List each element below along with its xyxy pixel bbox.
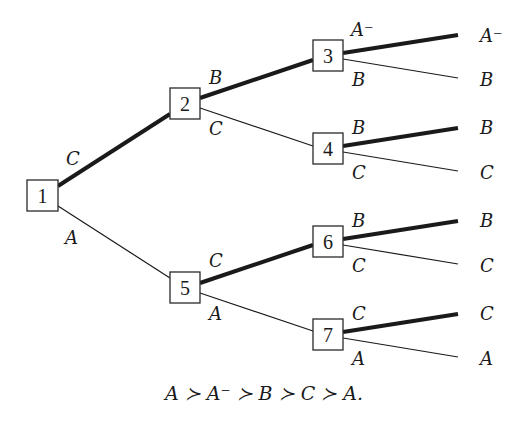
- node-7-label: 7: [323, 324, 333, 346]
- node-5: 5: [170, 272, 200, 303]
- game-tree-diagram: 1 2 3 4 5 6 7 C A B C C A A⁻ B B C B C C…: [0, 0, 517, 424]
- edge-label-6-a: B: [351, 210, 365, 231]
- edge-label-2-4: C: [209, 118, 223, 139]
- node-7: 7: [313, 319, 343, 350]
- leaf-8: A: [478, 348, 493, 369]
- leaf-7: C: [480, 303, 494, 324]
- edge-label-4-a: B: [351, 117, 365, 138]
- node-6: 6: [313, 226, 343, 257]
- edge-label-3-a: A⁻: [349, 19, 374, 40]
- node-3: 3: [313, 40, 343, 71]
- leaf-2: B: [479, 69, 493, 90]
- node-4-label: 4: [323, 138, 333, 160]
- preference-caption: A ≻ A⁻ ≻ B ≻ C ≻ A.: [163, 382, 363, 404]
- edge-label-5-6: C: [209, 250, 223, 271]
- leaf-6: C: [480, 255, 494, 276]
- node-6-label: 6: [323, 231, 333, 253]
- node-2: 2: [170, 88, 200, 119]
- node-1: 1: [27, 180, 58, 211]
- node-3-label: 3: [323, 45, 333, 67]
- edge-label-1-5: A: [63, 227, 78, 248]
- node-4: 4: [313, 133, 343, 164]
- node-2-label: 2: [180, 93, 190, 115]
- edge-label-1-2: C: [66, 148, 80, 169]
- edge-label-3-b: B: [351, 69, 365, 90]
- leaf-1: A⁻: [478, 25, 503, 46]
- leaf-4: C: [480, 162, 494, 183]
- leaf-3: B: [479, 117, 493, 138]
- edge-label-7-a: C: [352, 303, 366, 324]
- leaf-5: B: [479, 210, 493, 231]
- edge-label-7-b: A: [350, 348, 365, 369]
- edge-label-2-3: B: [208, 67, 222, 88]
- edge-label-5-7: A: [207, 303, 222, 324]
- node-5-label: 5: [180, 277, 190, 299]
- node-1-label: 1: [38, 185, 48, 207]
- edge-label-4-b: C: [352, 162, 366, 183]
- edge-label-6-b: C: [352, 255, 366, 276]
